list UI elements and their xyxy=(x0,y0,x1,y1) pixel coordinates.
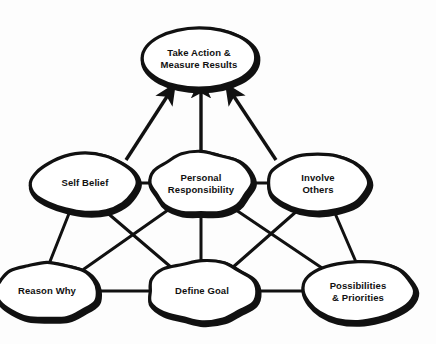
edge-self-belief-to-take-action xyxy=(126,95,168,160)
edge-involve-others-define-goal xyxy=(232,210,298,268)
node-self-belief[interactable] xyxy=(30,153,137,213)
edge-involve-others-to-take-action xyxy=(233,95,276,160)
diagram-graphics xyxy=(0,0,436,344)
node-take-action[interactable] xyxy=(142,28,255,88)
edge-personal-responsibility-reason-why xyxy=(84,210,168,269)
edge-involve-others-possibilities xyxy=(334,211,356,262)
node-involve-others[interactable] xyxy=(269,154,369,212)
edge-self-belief-reason-why xyxy=(49,211,70,264)
diagram-canvas: Take Action & Measure ResultsSelf Belief… xyxy=(0,0,436,344)
node-reason-why[interactable] xyxy=(0,262,97,318)
node-layer xyxy=(0,28,416,324)
node-personal-responsibility[interactable] xyxy=(150,151,252,213)
edge-self-belief-define-goal xyxy=(104,210,172,268)
edge-personal-responsibility-possibilities xyxy=(236,210,322,268)
